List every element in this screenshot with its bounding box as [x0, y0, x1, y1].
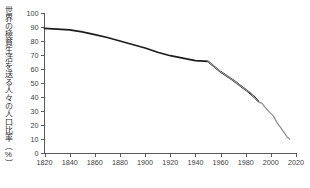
x-tick-group: 1820184018601880190019201940196019802000… — [37, 153, 305, 167]
x-tick-label: 1860 — [87, 158, 103, 167]
poverty-rate-chart: 世界の極貧生活を送る人々の人口比率（%） 0102030405060708090… — [0, 0, 310, 188]
x-tick-label: 1900 — [137, 158, 153, 167]
y-tick-label: 50 — [31, 79, 39, 88]
x-tick-label: 1920 — [162, 158, 178, 167]
y-tick-group: 0102030405060708090100 — [27, 9, 45, 158]
y-tick-label: 90 — [31, 23, 39, 32]
x-tick-label: 2000 — [263, 158, 279, 167]
y-tick-label: 40 — [31, 93, 39, 102]
y-tick-label: 100 — [27, 9, 39, 18]
y-tick-label: 80 — [31, 37, 39, 46]
x-tick-label: 1940 — [187, 158, 203, 167]
y-tick-label: 70 — [31, 51, 39, 60]
x-tick-label: 1880 — [112, 158, 128, 167]
y-tick-label: 60 — [31, 65, 39, 74]
series-line-historic-estimate — [45, 28, 259, 101]
y-axis-label: 世界の極貧生活を送る人々の人口比率（%） — [1, 6, 14, 172]
y-axis-label-text: 世界の極貧生活を送る人々の人口比率（%） — [3, 6, 12, 167]
y-tick-label: 20 — [31, 121, 39, 130]
y-tick-label: 0 — [35, 149, 39, 158]
chart-canvas: 0102030405060708090100 18201840186018801… — [0, 0, 310, 188]
x-tick-label: 1960 — [213, 158, 229, 167]
x-tick-label: 1980 — [238, 158, 254, 167]
x-tick-label: 1820 — [37, 158, 53, 167]
y-tick-label: 10 — [31, 135, 39, 144]
y-tick-label: 30 — [31, 107, 39, 116]
x-tick-label: 2020 — [288, 158, 304, 167]
x-tick-label: 1840 — [62, 158, 78, 167]
series-line-recent-survey-data — [208, 61, 290, 139]
